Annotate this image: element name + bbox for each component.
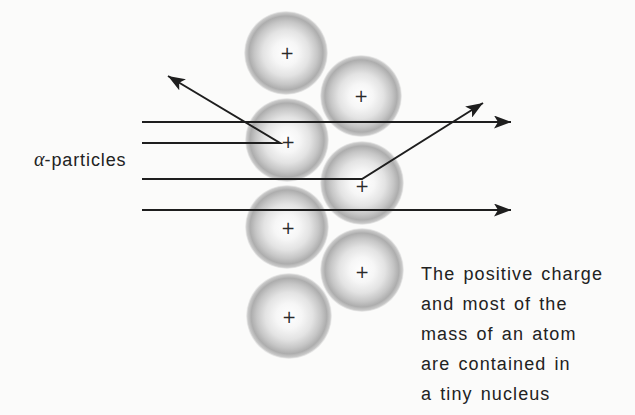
alpha-particles-label-text: -particles xyxy=(45,150,127,170)
caption-line: are contained in xyxy=(421,349,603,379)
nucleus-caption: The positive charge and most of the mass… xyxy=(421,259,603,409)
caption-line: and most of the xyxy=(421,289,603,319)
nucleus-plus-icon: + xyxy=(355,262,369,282)
caption-line: The positive charge xyxy=(421,259,603,289)
alpha-particles-label: α-particles xyxy=(34,148,127,171)
nucleus-plus-icon: + xyxy=(354,86,368,106)
nucleus-plus-icon: + xyxy=(282,307,296,327)
nucleus-plus-icon: + xyxy=(281,218,295,238)
caption-line: mass of an atom xyxy=(421,319,603,349)
gold-atoms-layer xyxy=(244,11,404,359)
alpha-symbol: α xyxy=(34,148,45,170)
caption-line: a tiny nucleus xyxy=(421,379,603,409)
nucleus-plus-icon: + xyxy=(281,132,295,152)
nucleus-plus-icon: + xyxy=(280,43,294,63)
